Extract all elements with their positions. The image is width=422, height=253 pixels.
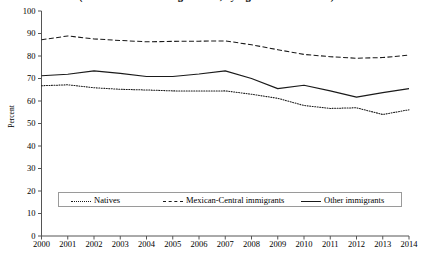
series-line xyxy=(42,85,410,115)
y-tick-label: 70 xyxy=(12,74,36,83)
legend-label: Other immigrants xyxy=(324,196,384,205)
y-tick-label: 80 xyxy=(12,52,36,61)
legend-line-dashed-icon xyxy=(163,197,183,205)
legend-line-dotted-icon xyxy=(71,197,91,205)
x-tick-label: 2014 xyxy=(392,239,422,249)
y-tick-label: 60 xyxy=(12,97,36,106)
y-tick-label: 40 xyxy=(12,142,36,151)
y-tick-label: 30 xyxy=(12,164,36,173)
legend-label: Mexican-Central immigrants xyxy=(186,196,284,205)
series-line xyxy=(42,71,410,97)
legend-item: Natives xyxy=(71,194,120,207)
data-series-group xyxy=(42,36,410,115)
legend-item: Other immigrants xyxy=(301,194,384,207)
y-tick-label: 10 xyxy=(12,209,36,218)
y-tick-label: 90 xyxy=(12,29,36,38)
chart-legend: NativesMexican-Central immigrantsOther i… xyxy=(58,192,402,207)
series-line xyxy=(42,36,410,58)
y-tick-label: 50 xyxy=(12,119,36,128)
y-tick-label: 100 xyxy=(12,7,36,16)
y-tick-label: 20 xyxy=(12,187,36,196)
legend-item: Mexican-Central immigrants xyxy=(163,194,284,207)
legend-label: Natives xyxy=(94,196,120,205)
legend-line-solid-icon xyxy=(301,197,321,205)
chart-title: (Share of individuals aged 16-64, by leg… xyxy=(0,0,413,2)
